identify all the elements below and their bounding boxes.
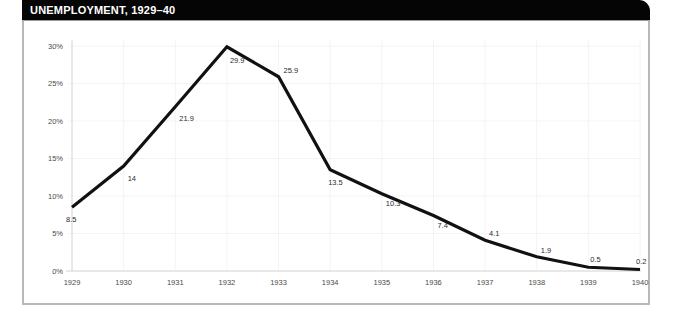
chart-frame (22, 20, 650, 305)
unemployment-chart-figure: UNEMPLOYMENT, 1929–40 0%5%10%15%20%25%30… (0, 0, 680, 318)
page-title: UNEMPLOYMENT, 1929–40 (30, 5, 175, 16)
chart-title-bar: UNEMPLOYMENT, 1929–40 (22, 0, 650, 20)
